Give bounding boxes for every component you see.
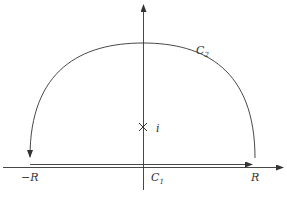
arc-c2 [30, 43, 255, 158]
pole-marker-icon [139, 123, 147, 131]
right-end-label: R [250, 171, 259, 184]
left-end-label: −R [21, 171, 39, 184]
arc-c2-label: C2 [196, 44, 209, 59]
pole-label: i [156, 122, 160, 135]
segment-c1-label: C1 [151, 171, 164, 186]
contour-diagram: i C2 C1 −R R [0, 0, 287, 210]
